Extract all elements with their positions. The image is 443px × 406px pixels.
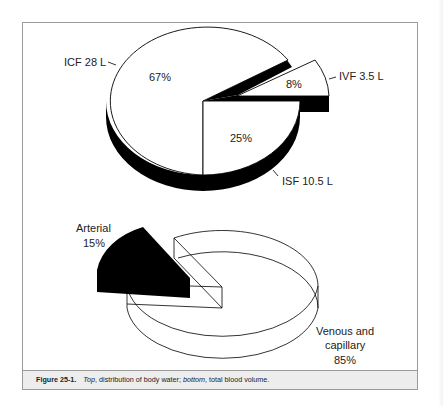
slot-bottom-line	[127, 304, 222, 308]
label-venous-line1: Venous and	[316, 325, 374, 337]
label-arterial: Arterial	[76, 222, 111, 234]
leader-isf	[273, 170, 278, 176]
leader-ivf	[329, 77, 336, 79]
caption-top-italic: Top	[83, 375, 95, 384]
label-arterial-pct: 15%	[83, 237, 105, 249]
label-isf: ISF 10.5 L	[282, 175, 333, 187]
bottom-pie-rim-back	[178, 252, 318, 308]
label-ivf: IVF 3.5 L	[339, 70, 384, 82]
figure-caption: Figure 25-1.Top, distribution of body wa…	[22, 370, 418, 390]
caption-figure-number: Figure 25-1.	[36, 375, 76, 384]
caption-bottom-text: , total blood volume.	[205, 375, 269, 384]
label-icf-pct: 67%	[149, 71, 171, 83]
label-venous-pct: 85%	[334, 354, 356, 366]
top-pie-chart: ICF 28 L 67% IVF 3.5 L 8% 25% ISF 10.5 L	[64, 27, 384, 191]
bottom-pie-rim	[127, 308, 318, 358]
caption-top-text: , distribution of body water;	[95, 375, 183, 384]
label-icf: ICF 28 L	[64, 56, 106, 68]
leader-icf	[108, 62, 116, 65]
figure-charts: ICF 28 L 67% IVF 3.5 L 8% 25% ISF 10.5 L…	[0, 0, 443, 406]
label-venous-line2: capillary	[325, 339, 366, 351]
label-ivf-pct: 8%	[286, 78, 302, 90]
label-isf-pct: 25%	[230, 132, 252, 144]
caption-bottom-italic: bottom	[183, 375, 205, 384]
